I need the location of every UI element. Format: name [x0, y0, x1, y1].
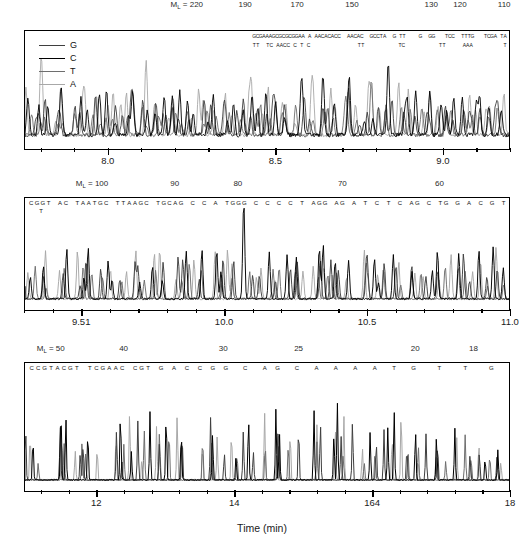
- ml-tick-190: 190: [238, 0, 251, 10]
- axis-tick-minor: [141, 148, 142, 152]
- axis-label-18: 18: [505, 497, 516, 508]
- ml-tick-220: ML = 220: [171, 0, 203, 12]
- legend-swatch-C: [39, 58, 65, 59]
- sequencing-electropherogram-figure: ML = 220190170150130120110 GCGAAAGCGCGCG…: [0, 0, 524, 541]
- axis-tick-minor: [152, 490, 153, 494]
- axis-tick-minor: [207, 490, 208, 494]
- axis-tick-minor: [338, 309, 339, 313]
- axis-tick-minor: [317, 490, 318, 494]
- ml-tick-30: 30: [219, 344, 228, 354]
- axis-tick-minor: [481, 309, 482, 313]
- ml-tick-18: 18: [469, 344, 478, 354]
- axis-label-9.0: 9.0: [436, 155, 449, 166]
- axis-label-10.5: 10.5: [358, 316, 377, 327]
- ml-tick-20: 20: [411, 344, 420, 354]
- axis-tick-minor: [453, 309, 454, 313]
- axis-tick-minor: [424, 309, 425, 313]
- axis-label-8.5: 8.5: [269, 155, 282, 166]
- axis-tick-minor: [175, 148, 176, 152]
- panel-3-time-axis: 121416418: [24, 490, 510, 510]
- axis-tick-major: [108, 148, 109, 155]
- panel-1-traces: [25, 31, 509, 149]
- ml-tick-150: 150: [345, 0, 358, 10]
- axis-tick-major: [510, 490, 511, 497]
- axis-tick-minor: [124, 490, 125, 494]
- axis-tick-minor: [242, 148, 243, 152]
- axis-tick-minor: [510, 148, 511, 152]
- legend-item-G: G: [39, 39, 77, 52]
- axis-tick-minor: [427, 490, 428, 494]
- axis-tick-minor: [376, 148, 377, 152]
- panel-3-plot-area: CCGTACGTTCGAACCGTGACCGGCAGCAAAATGTTG: [24, 362, 510, 492]
- axis-tick-minor: [41, 148, 42, 152]
- panel-2-traces: [25, 198, 509, 310]
- ml-tick-120: 120: [453, 0, 466, 10]
- legend-swatch-T: [39, 71, 65, 72]
- ml-tick-90: 90: [170, 179, 179, 189]
- panel-2-plot-area: CGGTACTAATGCTTAAGCTGCAGCCATGGGCCCCTAGGAG…: [24, 197, 510, 311]
- axis-tick-minor: [289, 490, 290, 494]
- ml-tick-130: 130: [425, 0, 438, 10]
- axis-tick-minor: [309, 148, 310, 152]
- legend-label-A: A: [70, 80, 76, 89]
- axis-tick-minor: [138, 309, 139, 313]
- axis-tick-minor: [345, 490, 346, 494]
- axis-tick-major: [510, 309, 511, 316]
- axis-tick-minor: [310, 309, 311, 313]
- axis-tick-minor: [409, 148, 410, 152]
- axis-tick-minor: [342, 148, 343, 152]
- axis-tick-major: [234, 490, 235, 497]
- ml-tick-50: ML = 50: [37, 344, 65, 356]
- legend-item-T: T: [39, 65, 77, 78]
- axis-tick-major: [372, 490, 373, 497]
- panel-1-ml-axis: ML = 220190170150130120110: [24, 0, 510, 18]
- axis-tick-minor: [482, 490, 483, 494]
- ml-tick-25: 25: [294, 344, 303, 354]
- axis-tick-minor: [455, 490, 456, 494]
- axis-tick-minor: [41, 490, 42, 494]
- axis-tick-minor: [253, 309, 254, 313]
- axis-label-9.51: 9.51: [72, 316, 91, 327]
- legend-label-G: G: [70, 41, 77, 50]
- axis-tick-minor: [74, 148, 75, 152]
- panel-2-ml-axis: ML = 10090807060: [24, 179, 510, 197]
- axis-tick-minor: [400, 490, 401, 494]
- axis-tick-major: [81, 309, 82, 316]
- legend-swatch-A: [39, 84, 65, 85]
- axis-tick-minor: [281, 309, 282, 313]
- legend-label-C: C: [70, 54, 77, 63]
- legend-label-T: T: [70, 67, 76, 76]
- axis-tick-minor: [110, 309, 111, 313]
- ml-tick-60: 60: [435, 179, 444, 189]
- panel-3-traces: [25, 363, 509, 491]
- axis-tick-minor: [69, 490, 70, 494]
- legend-item-A: A: [39, 78, 77, 91]
- legend-swatch-G: [39, 45, 65, 46]
- panel-1-plot-area: GCGAAAGCGCGCGGAAAAACACACCAACACGCCTAGTTGG…: [24, 30, 510, 150]
- axis-tick-major: [224, 309, 225, 316]
- axis-label-10.0: 10.0: [215, 316, 234, 327]
- panel-3-ml-axis: ML = 504030252018: [24, 344, 510, 362]
- trace-legend: GCTA: [39, 39, 77, 91]
- axis-tick-major: [367, 309, 368, 316]
- panel-1: ML = 220190170150130120110 GCGAAAGCGCGCG…: [0, 0, 524, 175]
- ml-tick-40: 40: [119, 344, 128, 354]
- axis-tick-minor: [196, 309, 197, 313]
- panel-3: ML = 504030252018 CCGTACGTTCGAACCGTGACCG…: [0, 340, 524, 541]
- ml-tick-110: 110: [498, 0, 511, 10]
- panel-2-time-axis: 9.5110.010.511.0: [24, 309, 510, 329]
- legend-item-C: C: [39, 52, 77, 65]
- axis-label-8.0: 8.0: [101, 155, 114, 166]
- axis-tick-minor: [208, 148, 209, 152]
- ml-tick-170: 170: [290, 0, 303, 10]
- ml-tick-70: 70: [338, 179, 347, 189]
- axis-label-11.0: 11.0: [501, 316, 519, 327]
- ml-tick-100: ML = 100: [76, 179, 108, 191]
- axis-tick-major: [96, 490, 97, 497]
- axis-tick-minor: [24, 309, 25, 313]
- axis-label-14: 14: [229, 497, 240, 508]
- axis-tick-minor: [262, 490, 263, 494]
- axis-tick-minor: [167, 309, 168, 313]
- ml-tick-80: 80: [233, 179, 242, 189]
- axis-tick-minor: [179, 490, 180, 494]
